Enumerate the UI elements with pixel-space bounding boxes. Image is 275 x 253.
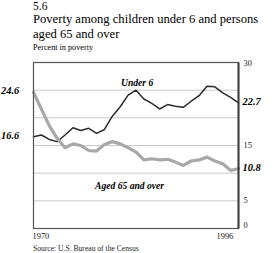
- y-axis-tick-5: 5: [244, 196, 248, 205]
- x-axis-tick-1996: 1996: [217, 232, 234, 241]
- chart-plot: [0, 0, 275, 253]
- start-value-aged65: 24.6: [1, 85, 19, 96]
- end-value-aged65: 10.8: [243, 162, 261, 173]
- start-value-under6: 16.6: [1, 130, 19, 141]
- source-note: Source: U.S. Bureau of the Census: [33, 244, 139, 253]
- y-axis-tick-30: 30: [244, 59, 252, 68]
- series-label-under6: Under 6: [121, 77, 153, 88]
- y-axis-tick-0: 0: [244, 221, 248, 230]
- end-value-under6: 22.7: [243, 96, 261, 107]
- x-axis-tick-1970: 1970: [33, 232, 50, 241]
- series-label-aged65: Aged 65 and over: [95, 180, 164, 191]
- figure-container: 5.6 Poverty among children under 6 and p…: [0, 0, 275, 253]
- y-axis-tick-15: 15: [244, 141, 252, 150]
